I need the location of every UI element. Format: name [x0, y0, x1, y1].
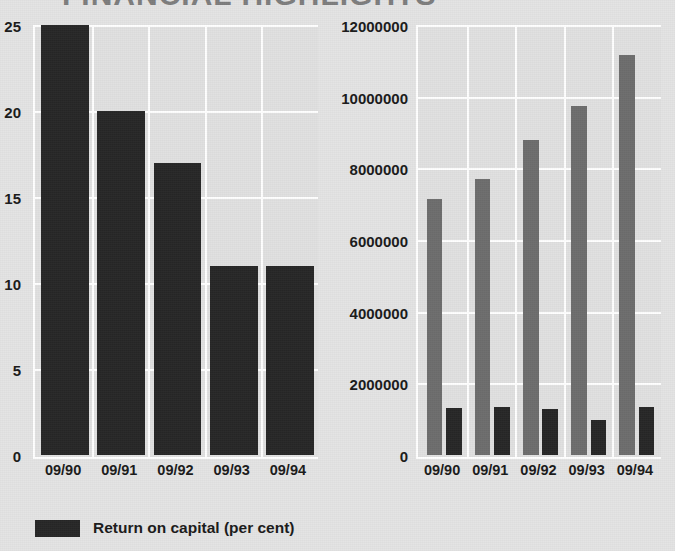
x-axis-tick-label: 09/94	[611, 462, 659, 478]
y-axis-tick-label: 20	[4, 104, 21, 121]
bar	[591, 420, 607, 455]
bar-group-right	[420, 25, 661, 455]
legend-left: Return on capital (per cent)	[0, 519, 338, 549]
x-axis-labels-left: 09/9009/9109/9209/9309/94	[35, 462, 318, 484]
bar	[639, 407, 655, 455]
y-axis-tick-label: 10	[4, 276, 21, 293]
y-axis-tick-label: 6000000	[350, 233, 408, 250]
bar-slot	[93, 25, 149, 455]
y-axis-tick-label: 4000000	[350, 304, 408, 321]
x-axis-tick-label: 09/91	[91, 462, 147, 478]
bar	[542, 409, 558, 455]
x-axis-tick-label: 09/91	[466, 462, 514, 478]
x-axis-tick-label: 09/93	[563, 462, 611, 478]
bar	[475, 179, 491, 455]
bar-slot	[516, 25, 564, 455]
bar-slot	[420, 25, 468, 455]
y-axis-tick-label: 2000000	[350, 376, 408, 393]
bar	[494, 407, 510, 455]
y-axis-tick-label: 10000000	[341, 89, 408, 106]
x-axis-tick-label: 09/90	[418, 462, 466, 478]
legend-item: Return on capital (per cent)	[35, 519, 295, 537]
bar	[523, 140, 539, 455]
legend-swatch-dark	[35, 520, 80, 537]
bar-slot	[565, 25, 613, 455]
chart-panel-return-on-capital: 0510152025 09/9009/9109/9209/9309/94 Ret…	[0, 0, 338, 551]
x-axis-tick-label: 09/93	[204, 462, 260, 478]
bar	[446, 408, 462, 455]
y-axis-tick-label: 25	[4, 18, 21, 35]
bar	[266, 266, 314, 455]
bar-group-left	[37, 25, 318, 455]
bar	[97, 111, 145, 455]
plot-area-left	[33, 25, 318, 459]
y-axis-labels-left: 0510152025	[0, 25, 27, 459]
chart-page: FINANCIAL HIGHLIGHTS 0510152025 09/9009/…	[0, 0, 675, 551]
bar	[619, 55, 635, 455]
bar-slot	[206, 25, 262, 455]
bar-slot	[262, 25, 318, 455]
y-axis-tick-label: 5	[13, 362, 21, 379]
bar-slot	[613, 25, 661, 455]
bar-slot	[468, 25, 516, 455]
y-axis-tick-label: 0	[13, 448, 21, 465]
x-axis-tick-label: 09/92	[147, 462, 203, 478]
x-axis-tick-label: 09/92	[514, 462, 562, 478]
bar-slot	[149, 25, 205, 455]
bar	[41, 25, 89, 455]
y-axis-tick-label: 8000000	[350, 161, 408, 178]
clipped-title-strip: FINANCIAL HIGHLIGHTS	[0, 0, 675, 11]
y-axis-tick-label: 12000000	[341, 18, 408, 35]
bar	[210, 266, 258, 455]
bar-slot	[37, 25, 93, 455]
y-axis-tick-label: 15	[4, 190, 21, 207]
legend-label: Return on capital (per cent)	[93, 519, 295, 537]
x-axis-labels-right: 09/9009/9109/9209/9309/94	[418, 462, 661, 484]
x-axis-tick-label: 09/94	[260, 462, 316, 478]
bar	[154, 163, 202, 455]
bar	[427, 199, 443, 455]
x-axis-tick-label: 09/90	[35, 462, 91, 478]
y-axis-labels-right: 0200000040000006000000800000010000000120…	[338, 25, 416, 459]
plot-area-right	[416, 25, 661, 459]
page-title-fragment: FINANCIAL HIGHLIGHTS	[62, 0, 436, 11]
bar	[571, 106, 587, 455]
y-axis-tick-label: 0	[400, 448, 408, 465]
